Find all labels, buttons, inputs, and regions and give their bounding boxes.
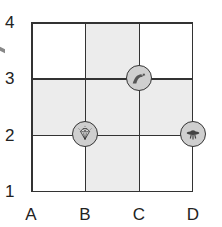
y-label-1: 1 (5, 182, 19, 202)
x-label-A: A (21, 205, 41, 225)
x-label-C: C (129, 205, 149, 225)
grid-line-4 (31, 22, 193, 24)
ufo-icon (184, 125, 202, 143)
x-label-D: D (183, 205, 203, 225)
grid-line-1 (31, 191, 193, 193)
token-ufo-D2[interactable] (180, 121, 206, 147)
grid-cell-A34 (31, 22, 85, 79)
grid-line-A (31, 22, 33, 192)
x-label-B: B (75, 205, 95, 225)
dinosaur-icon (130, 69, 148, 87)
grid-line-C (139, 22, 141, 192)
y-label-3: 3 (5, 69, 19, 89)
y-label-4: 4 (5, 13, 19, 33)
y-label-2: 2 (5, 126, 19, 146)
grid-line-2 (31, 135, 193, 137)
grid-line-D (192, 22, 194, 192)
token-dinosaur-C3[interactable] (126, 65, 152, 91)
grid-line-3 (31, 78, 193, 80)
token-diamond-B2[interactable] (72, 121, 98, 147)
margin-mark (0, 47, 5, 53)
diamond-icon (76, 125, 94, 143)
grid-line-B (85, 22, 87, 192)
coordinate-grid (31, 22, 193, 192)
